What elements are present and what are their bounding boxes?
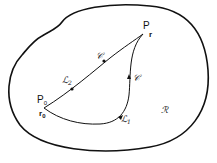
region-boundary: [9, 5, 208, 151]
upper-path-sub: 2: [68, 79, 72, 86]
start-point-sub: 0: [44, 100, 47, 106]
upper-path-label: ℒ2: [62, 76, 72, 86]
start-point-vector: r0: [39, 110, 45, 119]
upper-path-dot-2: [70, 87, 73, 90]
upper-path-curve: [44, 34, 143, 108]
start-point-letter: P: [37, 94, 44, 105]
lower-path-curve: [44, 34, 143, 124]
lower-path-sub: 1: [127, 118, 131, 125]
end-point-vector: r: [149, 31, 152, 39]
diagram-canvas: P r 𝒞 ℒ2 P0 r0 𝒞 ℒ1 ℛ: [0, 0, 217, 163]
start-point-label: P0: [37, 95, 47, 106]
right-curve-label: 𝒞: [133, 74, 140, 83]
start-vector-sub: 0: [42, 113, 45, 119]
region-label: ℛ: [161, 106, 168, 115]
lower-path-label: ℒ1: [121, 115, 131, 125]
diagram-svg: [0, 0, 217, 163]
upper-curve-label: 𝒞: [96, 52, 103, 61]
